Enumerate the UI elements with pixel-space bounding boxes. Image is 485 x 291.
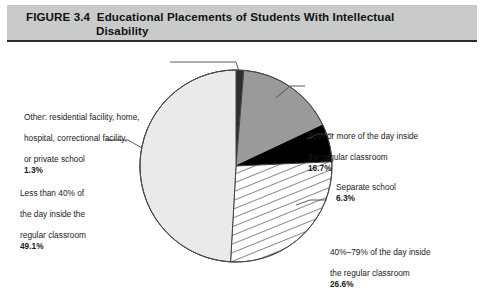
callout-other-line-3: or private school	[24, 154, 85, 164]
figure-number: FIGURE 3.4	[26, 10, 90, 23]
figure-title-text-line-2: Disability	[26, 24, 466, 38]
callout-other-line-1: Other: residential facility, home,	[24, 112, 140, 122]
figure-title-text-line-1: Educational Placements of Students With …	[97, 10, 395, 23]
leader-line-other	[170, 62, 239, 70]
callout-less-line-1: Less than 40% of	[20, 188, 84, 198]
callout-40-percent: 26.6%	[330, 279, 480, 290]
pie-chart-area: Other: residential facility, home, hospi…	[0, 44, 485, 281]
callout-40-line-2: the regular classroom	[330, 268, 410, 278]
callout-80-line-2: the regular classroom	[308, 152, 388, 162]
callout-separate-school: Separate school 6.3%	[336, 171, 476, 214]
callout-less-line-3: regular classroom	[20, 230, 86, 240]
callout-less-percent: 49.1%	[20, 241, 140, 252]
callout-80-line-1: 80% or more of the day inside	[308, 131, 418, 141]
callout-less-line-2: the day inside the	[20, 209, 85, 219]
callout-other-line-2: hospital, correctional facility,	[24, 133, 127, 143]
callout-other: Other: residential facility, home, hospi…	[24, 101, 200, 186]
callout-separate-percent: 6.3%	[336, 193, 476, 204]
figure-title-line-1	[90, 10, 97, 23]
callout-40-to-79-percent: 40%–79% of the day inside the regular cl…	[330, 236, 480, 291]
callout-separate-line-1: Separate school	[336, 182, 396, 192]
callout-40-line-1: 40%–79% of the day inside	[330, 247, 431, 257]
callout-less-than-40-percent: Less than 40% of the day inside the regu…	[20, 177, 140, 262]
callout-other-percent: 1.3%	[24, 165, 200, 176]
figure-title-band: FIGURE 3.4 Educational Placements of Stu…	[7, 5, 477, 42]
figure-title: FIGURE 3.4 Educational Placements of Stu…	[26, 10, 466, 38]
